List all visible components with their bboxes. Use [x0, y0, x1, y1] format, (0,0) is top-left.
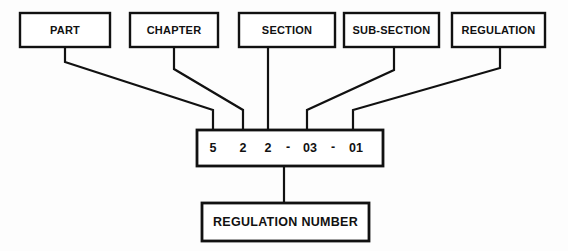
code-token-separator-1: -: [286, 140, 290, 154]
component-box-part: PART: [20, 13, 110, 47]
diagram-root: PART CHAPTER SECTION SUB-SECTION REGULAT…: [0, 0, 568, 251]
connector-lines: [65, 47, 500, 203]
component-box-regulation: REGULATION: [452, 13, 545, 47]
code-token-regulation-digits: 01: [349, 141, 363, 155]
component-box-part-label: PART: [50, 24, 80, 36]
component-box-sub-section-label: SUB-SECTION: [353, 24, 431, 36]
component-box-section: SECTION: [239, 13, 335, 47]
code-token-sub-section-digits: 03: [303, 141, 317, 155]
code-token-section-digit: 2: [265, 141, 272, 155]
component-box-sub-section: SUB-SECTION: [344, 13, 439, 47]
code-token-part-digit: 5: [210, 141, 217, 155]
connector-part-to-code: [65, 47, 213, 130]
component-box-chapter: CHAPTER: [130, 13, 218, 47]
connector-chapter-to-code: [174, 47, 243, 130]
regulation-number-diagram: PART CHAPTER SECTION SUB-SECTION REGULAT…: [0, 0, 568, 251]
code-token-chapter-digit: 2: [240, 141, 247, 155]
connector-regulation-to-code: [353, 47, 500, 130]
connector-sub-section-to-code: [307, 47, 394, 130]
component-box-section-label: SECTION: [262, 24, 312, 36]
code-box: 5 2 2 - 03 - 01: [197, 130, 383, 166]
result-box-label: REGULATION NUMBER: [213, 215, 358, 229]
component-box-regulation-label: REGULATION: [462, 24, 536, 36]
component-box-chapter-label: CHAPTER: [147, 24, 202, 36]
result-box: REGULATION NUMBER: [202, 203, 369, 241]
code-token-separator-2: -: [331, 140, 335, 154]
